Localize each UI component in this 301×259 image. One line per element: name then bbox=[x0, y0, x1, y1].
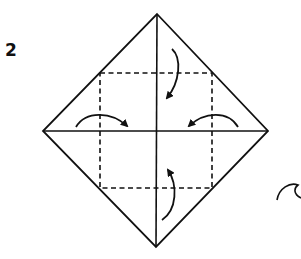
arrow-bottom-up-icon bbox=[162, 170, 175, 220]
origami-diagram bbox=[0, 0, 301, 259]
arrow-right-left-icon bbox=[189, 115, 238, 127]
turn-over-icon bbox=[277, 184, 301, 200]
arrow-left-right-icon bbox=[76, 115, 127, 127]
